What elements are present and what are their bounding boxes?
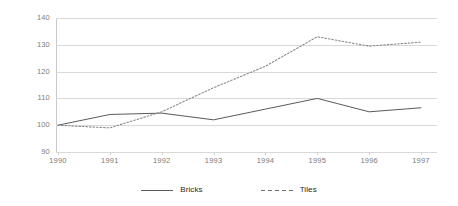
line-chart: 90100110120130140 1990199119921993199419… [0,0,458,206]
x-tick-mark [265,152,266,155]
x-tick-label: 1992 [153,157,171,165]
x-tick-mark [317,152,318,155]
x-tick-label: 1990 [49,157,67,165]
y-tick-label: 110 [4,94,50,102]
y-tick-label: 100 [4,121,50,129]
x-tick-label: 1991 [101,157,119,165]
x-tick-label: 1993 [205,157,223,165]
x-tick-label: 1995 [309,157,327,165]
y-tick-label: 140 [4,14,50,22]
y-tick-label: 130 [4,41,50,49]
y-axis-tick-labels: 90100110120130140 [0,18,50,152]
x-axis-tick-labels: 19901991199219931994199519961997 [56,157,437,171]
legend-label-bricks: Bricks [180,186,202,194]
x-tick-mark [162,152,163,155]
chart-legend: Bricks Tiles [0,182,458,198]
series-layer [56,18,437,152]
x-tick-mark [58,152,59,155]
x-tick-label: 1994 [257,157,275,165]
legend-label-tiles: Tiles [300,186,317,194]
y-tick-label: 90 [4,148,50,156]
legend-item-tiles[interactable]: Tiles [261,186,317,194]
plot-area [56,18,437,152]
x-tick-mark [369,152,370,155]
x-tick-mark [421,152,422,155]
x-tick-mark [110,152,111,155]
x-tick-label: 1997 [412,157,430,165]
x-tick-label: 1996 [360,157,378,165]
series-line-bricks [58,98,421,125]
x-tick-mark [214,152,215,155]
y-tick-label: 120 [4,68,50,76]
dashed-line-swatch [261,187,293,194]
legend-item-bricks[interactable]: Bricks [141,186,202,194]
solid-line-swatch [141,187,173,194]
